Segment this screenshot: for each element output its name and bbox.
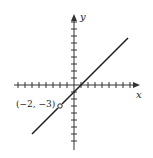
graph: y x (−2, −3) bbox=[0, 0, 153, 158]
y-axis bbox=[71, 14, 77, 150]
point-annotation: (−2, −3) bbox=[16, 99, 55, 109]
open-circle-marker bbox=[58, 104, 62, 108]
y-axis-label: y bbox=[79, 11, 86, 22]
x-axis-arrow-icon bbox=[133, 82, 140, 88]
x-axis-label: x bbox=[136, 89, 142, 100]
x-axis bbox=[14, 82, 140, 88]
y-axis-arrow-icon bbox=[71, 14, 77, 21]
